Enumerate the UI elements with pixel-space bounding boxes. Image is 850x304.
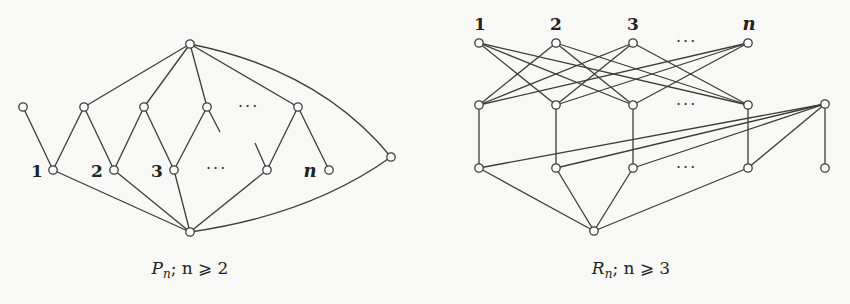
node-m1 [475, 101, 483, 109]
edge [479, 168, 594, 231]
edge [190, 170, 267, 232]
node-label: n [742, 13, 755, 34]
node-b2 [552, 164, 560, 172]
node-right [387, 153, 395, 161]
edge [174, 170, 190, 232]
node-bk [263, 166, 271, 174]
node-m1 [80, 103, 88, 111]
edge [53, 170, 190, 232]
node-m3 [629, 101, 637, 109]
node-bn [744, 164, 752, 172]
edge [479, 104, 825, 168]
edge [84, 44, 190, 107]
caption-condition: ; n ⩾ 2 [171, 258, 229, 278]
node-t3 [629, 39, 637, 47]
node-rb [821, 164, 829, 172]
node-tn [744, 39, 752, 47]
node-b2 [110, 166, 118, 174]
ellipsis: ··· [676, 32, 697, 51]
ellipsis: ··· [676, 158, 697, 177]
caption-symbol: R [592, 258, 605, 278]
ellipsis: ··· [676, 95, 697, 114]
node-label: 1 [474, 14, 486, 34]
caption-subscript: n [605, 267, 613, 281]
node-mn [744, 101, 752, 109]
edge [53, 107, 84, 170]
node-bottom [186, 228, 194, 236]
edges [479, 43, 825, 231]
node-top [186, 40, 194, 48]
diagram-p-n: 123n······ [19, 40, 395, 236]
ellipsis: ··· [238, 97, 259, 116]
caption-condition: ; n ⩾ 3 [612, 258, 670, 278]
diagram-r-n: 123n········· [474, 13, 829, 235]
node-t1 [475, 39, 483, 47]
edge [556, 168, 594, 231]
edge [633, 104, 825, 168]
node-m2 [552, 101, 560, 109]
node-r [821, 100, 829, 108]
caption-p-n: Pn; n ⩾ 2 [152, 258, 229, 281]
edge [114, 107, 144, 170]
diagram-figure: 123n······ 123n········· Pn; n ⩾ 2 Rn; n… [0, 0, 850, 304]
node-b1 [475, 164, 483, 172]
edge [594, 168, 633, 231]
edge [144, 44, 190, 107]
edges [23, 44, 391, 232]
edge [190, 44, 207, 107]
node-t2 [552, 39, 560, 47]
node-b3 [170, 166, 178, 174]
ellipsis: ··· [206, 159, 227, 178]
node-label: 3 [627, 14, 639, 34]
node-label: 2 [91, 161, 103, 181]
node-label: n [303, 160, 316, 181]
node-bn [325, 166, 333, 174]
node-label: 2 [550, 14, 562, 34]
node-b3 [629, 164, 637, 172]
edge [267, 107, 298, 170]
node-m3 [203, 103, 211, 111]
edge [174, 107, 207, 170]
node-m0 [19, 103, 27, 111]
edge [594, 168, 748, 231]
caption-r-n: Rn; n ⩾ 3 [592, 258, 670, 281]
node-bottom [590, 227, 598, 235]
caption-symbol: P [152, 258, 163, 278]
node-mk [294, 103, 302, 111]
node-b1 [49, 166, 57, 174]
node-m2 [140, 103, 148, 111]
node-label: 3 [151, 161, 163, 181]
lattice-diagrams: 123n······ 123n········· [0, 0, 850, 304]
node-label: 1 [31, 161, 43, 181]
